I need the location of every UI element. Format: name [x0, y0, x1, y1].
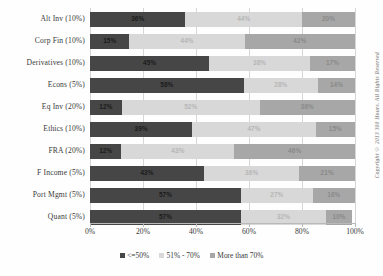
category-label: Port Mgmt (5%)	[0, 191, 90, 199]
bar-row: Econs (5%)58%28%14%	[0, 74, 383, 96]
bar-segment: 46%	[234, 144, 355, 159]
legend-item[interactable]: 51% - 70%	[159, 252, 200, 259]
bar-track: 15%44%42%	[90, 34, 355, 49]
bar-rows: Alt Inv (10%)36%44%20%Corp Fin (10%)15%4…	[0, 8, 383, 228]
bar-segment: 14%	[318, 78, 355, 93]
bar-row: Port Mgmt (5%)57%27%16%	[0, 184, 383, 206]
segment-value-label: 17%	[326, 60, 339, 66]
category-label: Quant (5%)	[0, 213, 90, 221]
x-tick-label: 0%	[85, 228, 95, 236]
legend-label: 51% - 70%	[167, 252, 200, 259]
stacked-bar-chart: Alt Inv (10%)36%44%20%Corp Fin (10%)15%4…	[0, 0, 383, 276]
bar-track: 45%38%17%	[90, 56, 355, 71]
bar-row: FRA (20%)12%43%46%	[0, 140, 383, 162]
segment-value-label: 38%	[253, 60, 266, 66]
bar-segment: 42%	[245, 34, 355, 49]
segment-value-label: 45%	[143, 60, 156, 66]
category-label: Ethics (10%)	[0, 125, 90, 133]
bar-segment: 12%	[90, 100, 122, 115]
segment-value-label: 27%	[270, 192, 283, 198]
segment-value-label: 32%	[277, 214, 290, 220]
legend-swatch-icon	[159, 253, 164, 258]
segment-value-label: 12%	[99, 104, 112, 110]
legend-label: More than 70%	[217, 252, 263, 259]
segment-value-label: 21%	[321, 170, 334, 176]
bar-segment: 57%	[90, 188, 241, 203]
legend-item[interactable]: <=50%	[120, 252, 149, 259]
bar-segment: 52%	[122, 100, 260, 115]
x-tick-label: 100%	[346, 228, 364, 236]
category-label: Econs (5%)	[0, 81, 90, 89]
segment-value-label: 15%	[103, 38, 116, 44]
legend-label: <=50%	[127, 252, 149, 259]
bar-segment: 39%	[90, 122, 192, 137]
stacked-bar: 36%44%20%	[90, 12, 355, 27]
bar-segment: 38%	[209, 56, 310, 71]
chart-legend: <=50%51% - 70%More than 70%	[0, 252, 383, 259]
bar-row: Corp Fin (10%)15%44%42%	[0, 30, 383, 52]
segment-value-label: 57%	[159, 192, 172, 198]
stacked-bar: 39%47%15%	[90, 122, 355, 137]
bar-segment: 20%	[302, 12, 355, 27]
segment-value-label: 47%	[247, 126, 260, 132]
bar-row: Eq Inv (20%)12%52%36%	[0, 96, 383, 118]
bar-track: 39%47%15%	[90, 122, 355, 137]
bar-segment: 12%	[90, 144, 121, 159]
segment-value-label: 20%	[322, 16, 335, 22]
segment-value-label: 36%	[131, 16, 144, 22]
bar-segment: 43%	[90, 166, 204, 181]
segment-value-label: 10%	[333, 214, 346, 220]
segment-value-label: 43%	[171, 148, 184, 154]
stacked-bar: 43%36%21%	[90, 166, 355, 181]
bar-segment: 44%	[129, 34, 244, 49]
segment-value-label: 14%	[330, 82, 343, 88]
bar-row: Quant (5%)57%32%10%	[0, 206, 383, 228]
segment-value-label: 36%	[245, 170, 258, 176]
bar-segment: 58%	[90, 78, 244, 93]
category-label: Derivatives (10%)	[0, 59, 90, 67]
segment-value-label: 44%	[181, 38, 194, 44]
copyright-notice: Copyright © 2013 300 Hours. All Rights R…	[371, 52, 382, 228]
bar-segment: 45%	[90, 56, 209, 71]
segment-value-label: 43%	[140, 170, 153, 176]
stacked-bar: 58%28%14%	[90, 78, 355, 93]
segment-value-label: 57%	[159, 214, 172, 220]
plot-area: Alt Inv (10%)36%44%20%Corp Fin (10%)15%4…	[0, 8, 383, 226]
x-tick-label: 80%	[295, 228, 309, 236]
legend-swatch-icon	[120, 253, 125, 258]
segment-value-label: 58%	[160, 82, 173, 88]
bar-track: 43%36%21%	[90, 166, 355, 181]
bar-track: 57%27%16%	[90, 188, 355, 203]
segment-value-label: 44%	[237, 16, 250, 22]
bar-track: 12%52%36%	[90, 100, 355, 115]
segment-value-label: 39%	[135, 126, 148, 132]
stacked-bar: 45%38%17%	[90, 56, 355, 71]
stacked-bar: 12%52%36%	[90, 100, 355, 115]
bar-segment: 17%	[310, 56, 355, 71]
category-label: Corp Fin (10%)	[0, 37, 90, 45]
category-label: FRA (20%)	[0, 147, 90, 155]
bar-row: Alt Inv (10%)36%44%20%	[0, 8, 383, 30]
bar-row: F Income (5%)43%36%21%	[0, 162, 383, 184]
bar-segment: 36%	[260, 100, 355, 115]
segment-value-label: 12%	[99, 148, 112, 154]
bar-row: Ethics (10%)39%47%15%	[0, 118, 383, 140]
bar-segment: 43%	[121, 144, 234, 159]
segment-value-label: 52%	[184, 104, 197, 110]
bar-row: Derivatives (10%)45%38%17%	[0, 52, 383, 74]
category-label: Eq Inv (20%)	[0, 103, 90, 111]
bar-segment: 27%	[241, 188, 313, 203]
stacked-bar: 12%43%46%	[90, 144, 355, 159]
legend-swatch-icon	[210, 253, 215, 258]
segment-value-label: 46%	[288, 148, 301, 154]
stacked-bar: 15%44%42%	[90, 34, 355, 49]
bar-segment: 47%	[192, 122, 315, 137]
bar-segment: 21%	[299, 166, 355, 181]
bar-track: 58%28%14%	[90, 78, 355, 93]
legend-item[interactable]: More than 70%	[210, 252, 263, 259]
bar-track: 12%43%46%	[90, 144, 355, 159]
segment-value-label: 28%	[274, 82, 287, 88]
x-axis-line	[90, 223, 356, 224]
x-tick-label: 60%	[242, 228, 256, 236]
bar-segment: 36%	[90, 12, 185, 27]
